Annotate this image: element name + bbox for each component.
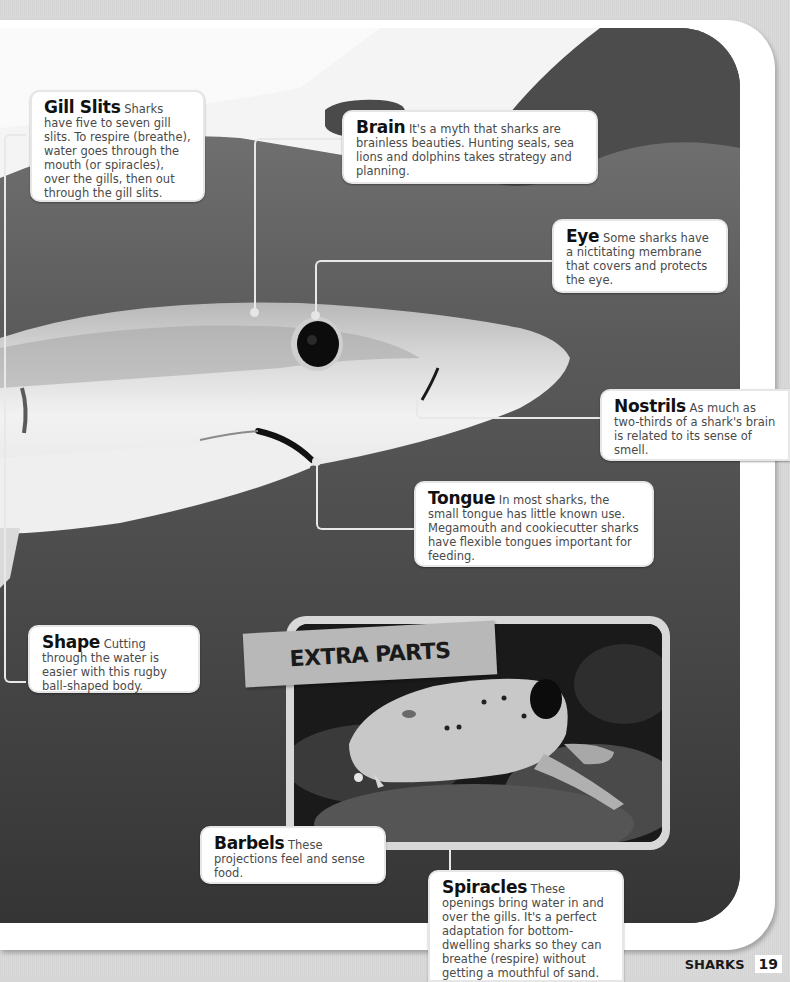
page-footer: SHARKS 19	[685, 955, 782, 973]
callout-title: Nostrils	[614, 396, 686, 416]
callout-tongue: Tongue In most sharks, the small tongue …	[414, 481, 654, 567]
callout-spiracles: Spiracles These openings bring water in …	[428, 870, 624, 982]
callout-shape: Shape Cutting through the water is easie…	[28, 625, 200, 693]
nostrils-connector	[416, 390, 604, 419]
gill-slits-connector	[4, 134, 26, 683]
tongue-connector	[316, 462, 428, 530]
callout-barbels: Barbels These projections feel and sense…	[200, 826, 386, 884]
callout-gill-slits: Gill Slits Sharks have five to seven gil…	[30, 90, 205, 202]
barbels-pointer-dot	[354, 773, 363, 782]
callout-title: Spiracles	[442, 877, 527, 897]
page-number: 19	[755, 955, 782, 973]
callout-nostrils: Nostrils As much as two-thirds of a shar…	[600, 389, 790, 461]
eye-connector	[315, 260, 558, 317]
brain-pointer-dot	[250, 308, 259, 317]
callout-title: Eye	[566, 226, 599, 246]
callout-title: Brain	[356, 117, 405, 137]
callout-eye: Eye Some sharks have a nictitating membr…	[552, 219, 728, 293]
section-label: SHARKS	[685, 957, 745, 972]
callout-body: These openings bring water in and over t…	[442, 882, 604, 980]
callout-title: Tongue	[428, 488, 495, 508]
tongue-pointer-dot	[312, 457, 321, 466]
eye-pointer-dot	[311, 311, 320, 320]
callout-brain: Brain It's a myth that sharks are brainl…	[342, 110, 598, 184]
extra-parts-banner-label: EXTRA PARTS	[289, 637, 451, 670]
callout-body: Sharks have five to seven gill slits. To…	[44, 102, 191, 200]
callout-title: Gill Slits	[44, 97, 121, 117]
callout-title: Barbels	[214, 833, 284, 853]
callout-title: Shape	[42, 632, 100, 652]
